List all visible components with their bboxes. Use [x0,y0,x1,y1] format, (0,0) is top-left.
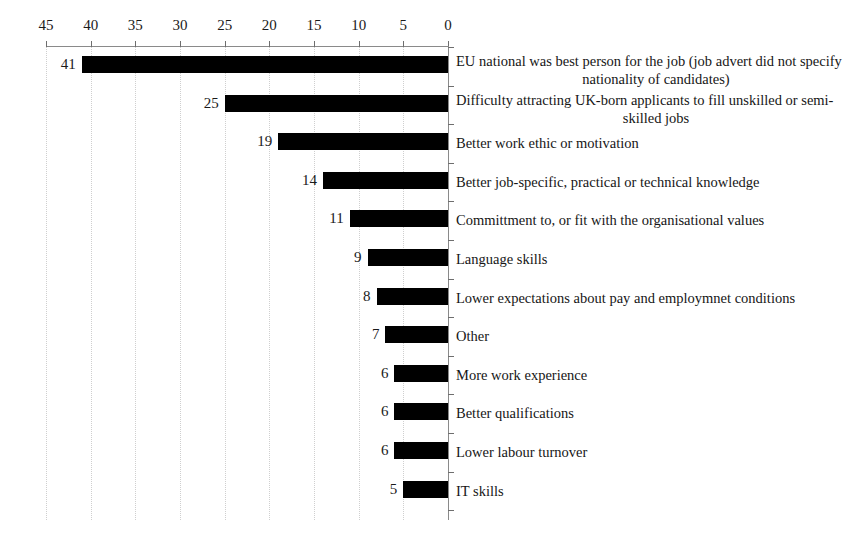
y-axis-tick [448,201,454,202]
category-label: Other [456,327,856,345]
x-axis-line [46,46,449,47]
y-axis-tick [448,317,454,318]
bar [82,56,448,73]
bar-value-label: 7 [321,326,379,343]
category-label: Better job-specific, practical or techni… [456,173,856,191]
y-axis-tick [448,124,454,125]
x-axis-tick [91,41,92,47]
category-label-line: Difficulty attracting UK-born applicants… [456,91,856,109]
category-label: IT skills [456,482,856,500]
x-axis-tick [359,41,360,47]
bar [394,365,448,382]
y-axis-tick [448,394,454,395]
bar [350,210,448,227]
plot-area: 454035302520151050 41EU national was bes… [0,0,863,545]
y-axis-tick [448,510,454,511]
gridline [135,46,136,520]
category-label: Committment to, or fit with the organisa… [456,211,856,229]
x-axis-tick-label: 25 [205,16,245,34]
bar-value-label: 19 [214,133,272,150]
bar-value-label: 25 [161,95,219,112]
bar [377,288,448,305]
y-axis-tick [448,47,454,48]
category-label-line: EU national was best person for the job … [456,52,856,70]
x-axis-tick [180,41,181,47]
bar-value-label: 8 [313,288,371,305]
x-axis-tick [314,41,315,47]
category-label: Lower expectations about pay and employm… [456,289,856,307]
bar-value-label: 11 [286,210,344,227]
x-axis-tick-label: 40 [71,16,111,34]
gridline [180,46,181,520]
y-axis-tick [448,472,454,473]
y-axis-tick [448,356,454,357]
bar [385,326,448,343]
y-axis-line [448,46,449,520]
x-axis-tick [403,41,404,47]
bar [394,403,448,420]
category-label-line: nationality of candidates) [456,70,856,88]
bar [368,249,448,266]
category-label-line: skilled jobs [456,109,856,127]
x-axis-tick-label: 10 [339,16,379,34]
category-label: Language skills [456,250,856,268]
gridline [269,46,270,520]
x-axis-tick-label: 0 [428,16,468,34]
category-label: Difficulty attracting UK-born applicants… [456,91,856,127]
x-axis-tick [46,41,47,47]
bar-value-label: 6 [330,442,388,459]
bar [403,481,448,498]
x-axis-tick [225,41,226,47]
bar-value-label: 6 [330,365,388,382]
x-axis-tick [269,41,270,47]
x-axis-tick-label: 20 [249,16,289,34]
category-label: Better qualifications [456,404,856,422]
bar-value-label: 6 [330,403,388,420]
category-label: EU national was best person for the job … [456,52,856,88]
bar-value-label: 41 [18,56,76,73]
bar [323,172,448,189]
x-axis-tick-label: 45 [26,16,66,34]
y-axis-tick [448,279,454,280]
bar-value-label: 14 [259,172,317,189]
x-axis-tick-label: 35 [115,16,155,34]
bar [394,442,448,459]
x-axis-tick [135,41,136,47]
y-axis-tick [448,240,454,241]
bar [225,95,448,112]
x-axis-tick-label: 5 [383,16,423,34]
gridline [46,46,47,520]
bar-value-label: 5 [339,481,397,498]
bar-value-label: 9 [304,249,362,266]
bar-chart: 454035302520151050 41EU national was bes… [0,0,863,545]
y-axis-tick [448,163,454,164]
gridline [225,46,226,520]
y-axis-tick [448,86,454,87]
category-label: Lower labour turnover [456,443,856,461]
bar [278,133,448,150]
y-axis-tick [448,433,454,434]
x-axis-tick-label: 15 [294,16,334,34]
category-label: More work experience [456,366,856,384]
x-axis-tick-label: 30 [160,16,200,34]
gridline [314,46,315,520]
gridline [91,46,92,520]
category-label: Better work ethic or motivation [456,134,856,152]
